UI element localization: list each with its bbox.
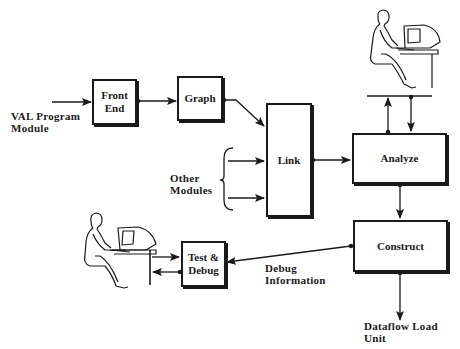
analyze-box: Analyze <box>352 133 447 184</box>
link-box: Link <box>266 103 312 217</box>
construct-box: Construct <box>353 220 448 272</box>
dataflow-load-unit-line2: Unit <box>364 332 438 344</box>
link-label: Link <box>278 154 301 167</box>
other-modules-line2: Modules <box>170 184 212 196</box>
debug-information-line1: Debug <box>265 262 326 274</box>
val-program-module-label: VAL Program Module <box>11 110 80 134</box>
other-modules-brace <box>220 148 233 210</box>
debug-information-line2: Information <box>265 274 326 286</box>
other-modules-line1: Other <box>170 172 212 184</box>
arrow-construct-to-testdebug <box>227 246 351 262</box>
dataflow-load-unit-line1: Dataflow Load <box>364 320 438 332</box>
construct-label: Construct <box>377 240 424 253</box>
person-at-terminal-icon <box>371 10 441 88</box>
arrow-graph-to-link <box>224 100 264 126</box>
front-end-label-line1: Front <box>101 89 128 102</box>
test-debug-box: Test & Debug <box>181 241 226 287</box>
dataflow-load-unit-label: Dataflow Load Unit <box>364 320 438 344</box>
front-end-label-line2: End <box>101 102 128 115</box>
analyze-label: Analyze <box>381 152 419 165</box>
debug-information-label: Debug Information <box>265 262 326 286</box>
graph-box: Graph <box>177 76 223 121</box>
other-modules-label: Other Modules <box>170 172 212 196</box>
val-program-module-line2: Module <box>11 122 80 134</box>
val-program-module-line1: VAL Program <box>11 110 80 122</box>
graph-label: Graph <box>184 92 215 105</box>
test-debug-label-line2: Debug <box>188 264 219 277</box>
test-debug-label-line1: Test & <box>188 251 219 264</box>
front-end-box: Front End <box>92 79 137 125</box>
person-at-terminal-icon <box>85 213 156 288</box>
